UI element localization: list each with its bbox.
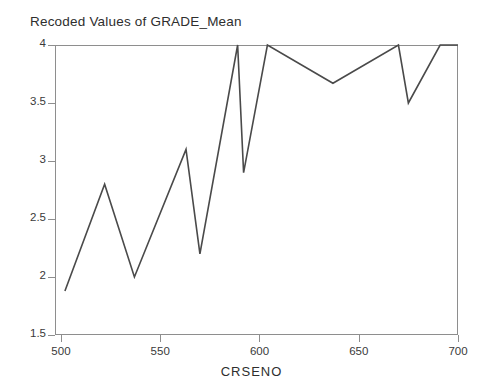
plot-area <box>55 45 458 335</box>
x-axis-tick-label: 700 <box>448 345 467 357</box>
x-axis-tick-label: 500 <box>51 345 70 357</box>
y-axis-tick-mark <box>48 335 55 336</box>
y-axis-tick-label: 2 <box>40 269 46 281</box>
x-axis-tick-label: 600 <box>250 345 269 357</box>
y-axis-tick-label: 4 <box>40 37 46 49</box>
y-axis-tick-label: 3 <box>40 153 46 165</box>
y-axis-tick-mark <box>48 277 55 278</box>
y-axis-tick-mark <box>48 161 55 162</box>
y-axis-tick-mark <box>48 103 55 104</box>
y-axis-tick-mark <box>48 219 55 220</box>
x-axis-tick-label: 550 <box>151 345 170 357</box>
y-axis-label-group: 1.522.533.54 <box>0 0 46 392</box>
x-axis-tick-mark <box>458 335 459 342</box>
x-axis-tick-mark <box>359 335 360 342</box>
x-axis-tick-mark <box>61 335 62 342</box>
chart-title: Recoded Values of GRADE_Mean <box>30 14 242 29</box>
x-axis-tick-mark <box>259 335 260 342</box>
y-axis-tick-label: 3.5 <box>30 95 46 107</box>
y-axis-tick-label: 1.5 <box>30 327 46 339</box>
y-axis-tick-mark <box>48 45 55 46</box>
y-axis-tick-label: 2.5 <box>30 211 46 223</box>
chart-container: Recoded Values of GRADE_Mean 1.522.533.5… <box>0 0 503 392</box>
data-series-line <box>65 45 458 291</box>
x-axis-tick-mark <box>160 335 161 342</box>
x-axis-tick-label: 650 <box>349 345 368 357</box>
x-axis-title: CRSENO <box>0 364 503 379</box>
